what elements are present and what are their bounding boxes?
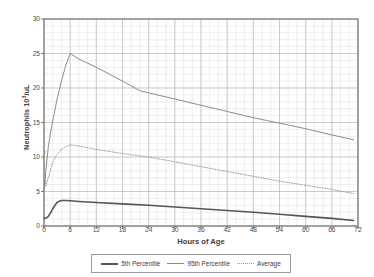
x-tick-label: 18	[113, 226, 133, 233]
y-tick-label: 15	[24, 119, 40, 126]
x-tick-label: 54	[270, 226, 290, 233]
y-tick-label: 5	[24, 188, 40, 195]
x-tick-label: 66	[322, 226, 342, 233]
x-tick-label: 42	[217, 226, 237, 233]
dotted-line-swatch-icon	[237, 263, 254, 264]
x-tick-label: 48	[243, 226, 263, 233]
legend-item-average: Average	[237, 260, 281, 267]
x-tick-label: 30	[165, 226, 185, 233]
x-tick-label: 12	[86, 226, 106, 233]
solid-thick-line-swatch-icon	[101, 263, 118, 265]
y-tick-label: 20	[24, 84, 40, 91]
major-gridlines	[44, 19, 358, 226]
legend-label-p95: 95th Percentile	[187, 260, 230, 267]
x-tick-label: 24	[139, 226, 159, 233]
legend-label-p5: 5th Percentile	[121, 260, 160, 267]
x-tick-label: 0	[34, 226, 54, 233]
legend-label-average: Average	[257, 260, 281, 267]
x-tick-label: 36	[191, 226, 211, 233]
x-tick-label: 60	[296, 226, 316, 233]
y-tick-label: 30	[24, 15, 40, 22]
y-tick-label: 25	[24, 50, 40, 57]
x-axis-title: Hours of Age	[44, 237, 358, 246]
series-line-0	[44, 200, 354, 220]
x-axis-ticks	[41, 19, 358, 229]
legend-item-p95: 95th Percentile	[167, 260, 230, 267]
neutrophils-line-chart: Neutrophils 103/uL 051015202530 06121824…	[0, 0, 374, 277]
x-tick-label: 6	[60, 226, 80, 233]
series-line-2	[44, 145, 354, 194]
x-tick-label: 72	[348, 226, 368, 233]
chart-legend: 5th Percentile 95th Percentile Average	[91, 254, 291, 273]
solid-thin-line-swatch-icon	[167, 263, 184, 264]
x-axis-tick-labels: 061218243036424854606672	[0, 226, 374, 236]
legend-item-p5: 5th Percentile	[101, 260, 160, 267]
y-tick-label: 10	[24, 153, 40, 160]
